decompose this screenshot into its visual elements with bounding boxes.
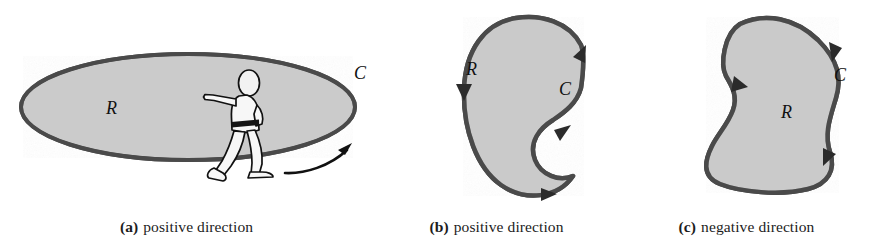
caption-c-tag: (c) bbox=[679, 218, 697, 235]
caption-b-text: positive direction bbox=[454, 218, 564, 235]
panel-b-diagram bbox=[373, 0, 620, 238]
direction-arrowhead-b-inner-lower bbox=[554, 125, 571, 141]
direction-arrow-a-head bbox=[338, 143, 352, 155]
figure-container: R C (a)positive direction bbox=[0, 0, 873, 238]
caption-a: (a)positive direction bbox=[0, 218, 373, 236]
person-head bbox=[239, 70, 260, 96]
curve-label-c: C bbox=[834, 66, 846, 84]
region-label-b: R bbox=[466, 60, 477, 78]
curve-label-b: C bbox=[559, 80, 571, 98]
region-label-c: R bbox=[781, 103, 792, 121]
caption-a-text: positive direction bbox=[143, 218, 253, 235]
person-front-shoe bbox=[248, 172, 273, 178]
panel-c-diagram bbox=[620, 0, 873, 238]
region-texture-crescent bbox=[464, 17, 583, 196]
panel-a-diagram bbox=[0, 0, 373, 238]
caption-c-text: negative direction bbox=[701, 218, 814, 235]
caption-b: (b)positive direction bbox=[373, 218, 620, 236]
caption-b-tag: (b) bbox=[429, 218, 448, 235]
caption-a-tag: (a) bbox=[120, 218, 138, 235]
panel-b: R C (b)positive direction bbox=[373, 0, 620, 238]
region-label-a: R bbox=[106, 99, 117, 117]
panel-c: R C (c)negative direction bbox=[620, 0, 873, 238]
panel-a: R C (a)positive direction bbox=[0, 0, 373, 238]
caption-c: (c)negative direction bbox=[620, 218, 873, 236]
direction-arrow-a-shaft bbox=[285, 150, 347, 173]
region-texture-ellipse bbox=[23, 56, 353, 158]
curve-label-a: C bbox=[354, 64, 366, 82]
